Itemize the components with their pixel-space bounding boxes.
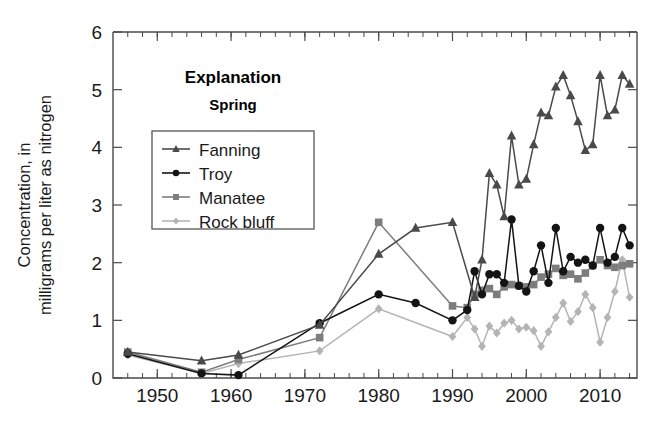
- x-tick-label: 1960: [210, 385, 252, 406]
- data-point-triangle: [499, 211, 509, 220]
- data-point-diamond: [589, 303, 597, 312]
- data-point-square: [537, 273, 545, 281]
- legend-item-label: Fanning: [199, 141, 260, 160]
- data-point-square: [316, 334, 324, 342]
- data-point-diamond: [581, 290, 589, 299]
- y-axis-title-line1: Concentration, in: [15, 143, 33, 268]
- chart-legend: ExplanationSpringFanningTroyManateeRock …: [152, 68, 314, 232]
- chart-canvas: Concentration, inmilligrams per liter as…: [0, 0, 666, 429]
- data-point-triangle: [536, 108, 546, 117]
- data-point-circle: [234, 371, 242, 379]
- data-point-triangle: [507, 131, 517, 140]
- data-point-diamond: [478, 342, 486, 351]
- legend-item-label: Troy: [199, 165, 233, 184]
- data-point-circle: [485, 270, 493, 278]
- data-point-triangle: [522, 174, 532, 183]
- legend-item-label: Manatee: [199, 189, 265, 208]
- data-point-circle: [500, 279, 508, 287]
- data-point-square: [486, 285, 494, 293]
- data-point-square: [449, 302, 457, 310]
- data-point-triangle: [581, 145, 591, 154]
- data-point-circle: [552, 224, 560, 232]
- data-point-circle: [374, 290, 382, 298]
- data-point-triangle: [529, 139, 539, 148]
- data-point-diamond: [596, 338, 604, 347]
- data-point-triangle: [610, 105, 620, 114]
- data-point-triangle: [514, 180, 524, 189]
- data-point-triangle: [477, 255, 487, 264]
- data-point-triangle: [573, 116, 583, 125]
- y-tick-label: 5: [91, 80, 102, 101]
- data-point-square: [375, 219, 383, 227]
- data-point-square: [626, 260, 634, 268]
- data-point-triangle: [595, 70, 605, 79]
- data-point-triangle: [603, 110, 613, 119]
- data-point-diamond: [559, 298, 567, 307]
- data-point-diamond: [537, 342, 545, 351]
- data-point-circle: [596, 224, 604, 232]
- data-point-diamond: [522, 323, 530, 332]
- data-point-square: [596, 256, 604, 264]
- legend-title: Explanation: [185, 68, 281, 87]
- data-point-circle: [448, 316, 456, 324]
- data-point-square: [618, 262, 626, 270]
- data-point-triangle: [374, 249, 384, 258]
- data-point-square: [582, 269, 590, 277]
- data-point-triangle: [448, 217, 458, 226]
- y-tick-label: 2: [91, 253, 102, 274]
- data-point-triangle: [566, 90, 576, 99]
- data-point-circle: [507, 215, 515, 223]
- data-point-square: [530, 281, 538, 289]
- data-point-diamond: [611, 287, 619, 296]
- x-tick-label: 1980: [358, 385, 400, 406]
- data-point-circle: [544, 279, 552, 287]
- data-point-triangle: [485, 168, 495, 177]
- y-axis-title-line2: milligrams per liter as nitrogen: [36, 95, 54, 315]
- data-point-circle: [574, 258, 582, 266]
- data-point-triangle: [558, 70, 568, 79]
- data-point-diamond: [545, 327, 553, 336]
- data-point-circle: [463, 306, 471, 314]
- y-tick-label: 0: [91, 368, 102, 389]
- x-tick-label: 1990: [431, 385, 473, 406]
- legend-subtitle: Spring: [209, 96, 257, 113]
- data-point-diamond: [375, 304, 383, 313]
- y-axis-title: Concentration, inmilligrams per liter as…: [15, 95, 54, 315]
- data-point-circle: [522, 287, 530, 295]
- data-point-circle: [411, 299, 419, 307]
- x-tick-label: 1950: [136, 385, 178, 406]
- data-point-diamond: [626, 293, 634, 302]
- y-tick-label: 3: [91, 195, 102, 216]
- data-point-square: [567, 270, 575, 278]
- nitrogen-concentration-figure: Concentration, inmilligrams per liter as…: [0, 0, 666, 429]
- data-point-circle: [529, 267, 537, 275]
- data-point-square: [552, 265, 560, 273]
- data-point-triangle: [588, 139, 598, 148]
- data-point-circle: [618, 224, 626, 232]
- data-point-diamond: [530, 326, 538, 335]
- y-tick-label: 6: [91, 22, 102, 43]
- y-tick-label: 1: [91, 310, 102, 331]
- legend-item-label: Rock bluff: [199, 213, 275, 232]
- data-point-diamond: [316, 346, 324, 355]
- data-point-circle: [625, 241, 633, 249]
- data-point-circle: [197, 369, 205, 377]
- data-point-triangle: [617, 70, 627, 79]
- data-point-square: [611, 263, 619, 271]
- data-point-diamond: [552, 313, 560, 322]
- data-point-circle: [173, 170, 180, 177]
- data-point-circle: [559, 267, 567, 275]
- data-point-circle: [589, 261, 597, 269]
- data-point-square: [574, 275, 582, 283]
- y-tick-label: 4: [91, 137, 102, 158]
- data-point-circle: [581, 256, 589, 264]
- data-point-circle: [478, 290, 486, 298]
- data-point-circle: [537, 241, 545, 249]
- series-troy: [124, 215, 634, 379]
- x-tick-label: 1970: [284, 385, 326, 406]
- data-point-circle: [515, 282, 523, 290]
- data-point-square: [173, 194, 179, 200]
- data-point-square: [493, 291, 501, 299]
- data-point-diamond: [604, 313, 612, 322]
- data-point-circle: [611, 253, 619, 261]
